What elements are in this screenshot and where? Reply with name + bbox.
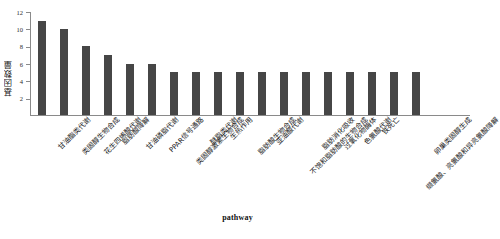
bar bbox=[368, 72, 376, 115]
x-axis-line bbox=[30, 115, 470, 116]
x-axis-tick-labels: 甘油酯类代谢类固醇生物合成花生四烯酸代谢脂肪酸降解甘油磷脂代谢PPAR信号通路类… bbox=[30, 117, 475, 202]
y-axis-tick: 8 bbox=[26, 47, 30, 48]
bar bbox=[82, 46, 90, 115]
bar bbox=[38, 21, 46, 115]
y-axis-tick-label: 8 bbox=[20, 44, 23, 51]
y-axis-tick: 4 bbox=[26, 81, 30, 82]
plot-area: 24681012 bbox=[30, 12, 470, 116]
x-axis-title: pathway bbox=[0, 213, 475, 222]
bar bbox=[302, 72, 310, 115]
bar bbox=[104, 55, 112, 115]
y-axis-tick: 6 bbox=[26, 64, 30, 65]
bar bbox=[170, 72, 178, 115]
bar bbox=[324, 72, 332, 115]
bar bbox=[280, 72, 288, 115]
y-axis-title: 基因数量 bbox=[2, 38, 16, 118]
bars-group bbox=[31, 12, 470, 115]
bar bbox=[346, 72, 354, 115]
y-axis-tick-label: 12 bbox=[17, 9, 24, 16]
y-axis-tick-label: 4 bbox=[20, 79, 23, 86]
bar bbox=[390, 72, 398, 115]
y-axis-tick: 2 bbox=[26, 99, 30, 100]
bar bbox=[214, 72, 222, 115]
y-axis-tick: 10 bbox=[26, 29, 30, 30]
bar bbox=[148, 64, 156, 116]
bar bbox=[236, 72, 244, 115]
y-axis-tick-label: 2 bbox=[20, 96, 23, 103]
bar bbox=[258, 72, 266, 115]
y-axis-tick-label: 10 bbox=[17, 27, 24, 34]
y-axis-tick: 12 bbox=[26, 12, 30, 13]
bar bbox=[412, 72, 420, 115]
bar bbox=[192, 72, 200, 115]
bar bbox=[126, 64, 134, 116]
bar bbox=[60, 29, 68, 115]
y-axis-tick-label: 6 bbox=[20, 61, 23, 68]
